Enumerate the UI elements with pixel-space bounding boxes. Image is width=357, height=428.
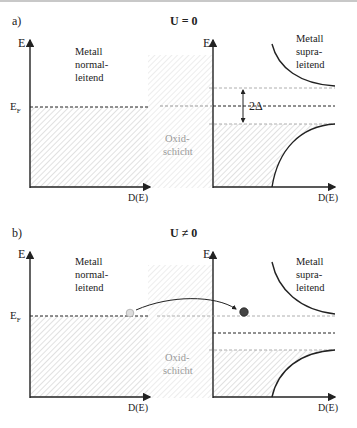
panel-label: a) [12,14,21,28]
axis-label-e: E [18,247,25,261]
oxide-barrier [148,55,213,188]
panel-b: b) U ≠ 0 Oxid- schicht E D(E) EF Metall … [10,226,338,414]
filled-states-left [30,107,148,187]
axis-label-dos: D(E) [128,192,148,204]
axis-label-dos: D(E) [318,192,338,204]
right-metal-text-2: supra- [296,269,323,280]
filled-states-left [30,316,148,397]
barrier-text-1: Oxid- [165,133,190,144]
axis-label-dos: D(E) [128,402,148,414]
left-metal-text-2: normal- [75,59,109,70]
barrier-text-2: schicht [163,146,193,157]
right-metal-text-1: Metall [296,256,323,267]
axis-label-e: E [203,36,210,50]
right-metal-text-3: leitend [296,282,325,293]
oxide-barrier [148,265,213,398]
barrier-text-2: schicht [163,365,193,376]
left-metal-text-3: leitend [75,282,104,293]
fermi-label: EF [10,309,21,324]
axis-label-dos: D(E) [318,402,338,414]
left-metal-text-2: normal- [75,269,109,280]
tunnel-diagram: a) U = 0 Oxid- schicht E D(E) EF Metall … [0,0,357,428]
fermi-label: EF [10,100,21,115]
left-metal-text-3: leitend [75,72,104,83]
panel-title: U = 0 [170,14,198,28]
electron-final-icon [240,308,248,316]
right-metal-text-3: leitend [296,59,325,70]
right-metal-text-1: Metall [296,33,323,44]
right-metal-text-2: supra- [296,46,323,57]
barrier-text-1: Oxid- [165,352,190,363]
gap-label: 2Δ [249,99,263,113]
left-metal-text-1: Metall [75,256,102,267]
panel-label: b) [12,226,22,240]
panel-a: a) U = 0 Oxid- schicht E D(E) EF Metall … [10,14,338,204]
electron-initial-icon [126,309,134,317]
axis-label-e: E [203,247,210,261]
axis-label-e: E [18,36,25,50]
left-metal-text-1: Metall [75,46,102,57]
panel-title: U ≠ 0 [170,226,197,240]
